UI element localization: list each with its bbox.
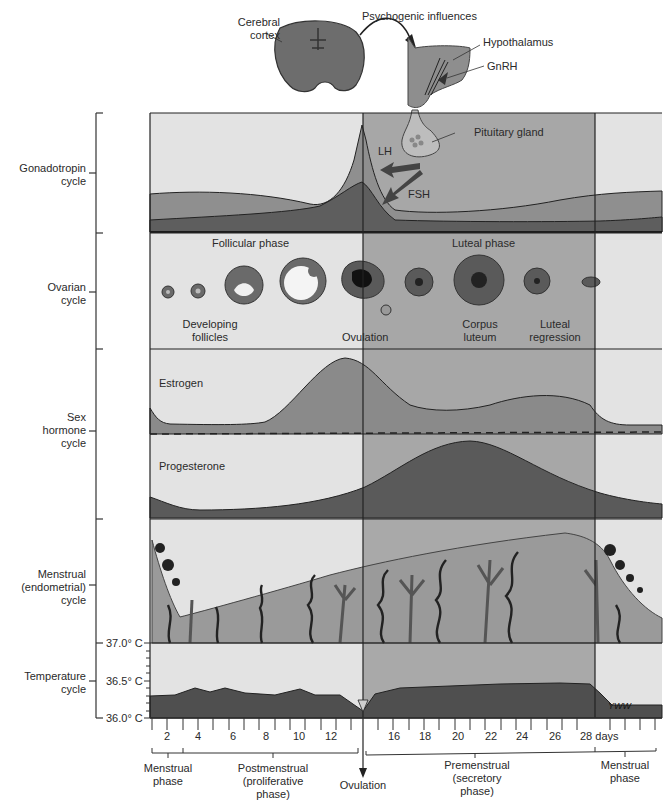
label-line: Menstrual [0,568,86,581]
lh-label: LH [378,145,392,158]
label-line: cycle [0,437,86,450]
phase-brackets [152,747,656,758]
day-tick-label: 18 [419,730,431,743]
label-line: cycle [0,294,86,307]
temp-label-36: 36.0° C [106,712,143,725]
label-line: phase) [432,785,522,798]
label-line: Menstrual [590,759,660,772]
row-label-temperature: Temperature cycle [0,670,86,696]
cerebral-cortex-icon [265,18,416,91]
label-line: (endometrial) [0,581,86,594]
day-tick-label: 22 [485,730,497,743]
label-line: (proliferative [228,775,318,788]
hypothalamus-label: Hypothalamus [483,36,553,49]
day-tick-label: 12 [325,730,337,743]
corpus-luteum-label: Corpus luteum [450,318,510,344]
menstrual-phase-label-end: Menstrual phase [590,759,660,785]
menstrual-phase-label: Menstrual phase [136,762,200,788]
label-line: cycle [0,683,86,696]
row-label-menstrual: Menstrual (endometrial) cycle [0,568,86,607]
day-tick-label: 20 [452,730,464,743]
temp-label-37: 37.0° C [106,637,143,650]
label-line: Sex [0,411,86,424]
hypothalamus-icon [408,37,484,108]
day-tick-label: 2 [164,730,170,743]
label-line: phase [590,772,660,785]
label-line: Temperature [0,670,86,683]
left-brackets [89,113,103,718]
day-tick-label: 4 [195,730,201,743]
artist-signature: YWW [608,700,631,713]
day-tick-label: 28 days [580,730,619,743]
label-line: luteum [450,331,510,344]
label-line: Postmenstrual [228,762,318,775]
label-line: (secretory [432,772,522,785]
row-label-ovarian: Ovarian cycle [0,281,86,307]
label-line: follicles [170,331,250,344]
label-line: cortex [220,29,280,42]
cerebral-cortex-label: Cerebral cortex [220,16,280,42]
label-line: phase [136,775,200,788]
temp-label-36-5: 36.5° C [106,675,143,688]
row-label-sex-hormone: Sex hormone cycle [0,411,86,450]
label-line: Gonadotropin [0,162,86,175]
follicular-phase-label: Follicular phase [212,237,289,250]
row-label-gonadotropin: Gonadotropin cycle [0,162,86,188]
label-line: cycle [0,175,86,188]
progesterone-label: Progesterone [159,460,225,473]
label-line: Ovarian [0,281,86,294]
day-tick-label: 6 [230,730,236,743]
luteal-phase-label: Luteal phase [452,237,515,250]
temperature-curve [150,683,662,718]
day-tick-label: 24 [516,730,528,743]
luteal-regression-label: Luteal regression [520,318,590,344]
estrogen-label: Estrogen [159,377,203,390]
day-tick-label: 26 [549,730,561,743]
label-line: hormone [0,424,86,437]
ovulation-label: Ovulation [333,779,393,792]
day-tick-label: 16 [388,730,400,743]
label-line: regression [520,331,590,344]
label-line: Corpus [450,318,510,331]
day-axis-ticks [150,718,662,730]
developing-follicles-label: Developing follicles [170,318,250,344]
premenstrual-phase-label: Premenstrual (secretory phase) [432,759,522,798]
postmenstrual-phase-label: Postmenstrual (proliferative phase) [228,762,318,801]
day-tick-label: 10 [293,730,305,743]
label-line: Luteal [520,318,590,331]
temperature-ticks [144,643,150,718]
menstrual-cycle-diagram [0,0,663,811]
label-line: cycle [0,594,86,607]
ovulation-ovary-label: Ovulation [342,331,388,344]
label-line: Premenstrual [432,759,522,772]
day-tick-label: 8 [263,730,269,743]
psychogenic-influences-label: Psychogenic influences [362,10,477,23]
label-line: Menstrual [136,762,200,775]
label-line: Cerebral [220,16,280,29]
pituitary-gland-label: Pituitary gland [474,126,544,139]
label-line: phase) [228,788,318,801]
gnrh-label: GnRH [487,60,518,73]
label-line: Developing [170,318,250,331]
fsh-label: FSH [408,188,430,201]
